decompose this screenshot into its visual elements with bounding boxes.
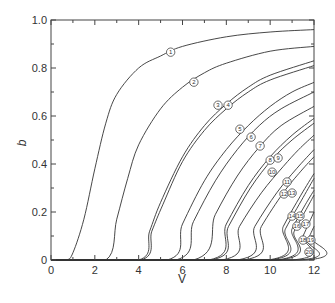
curve-10 [51, 135, 314, 260]
curve-label-marker: 15 [296, 212, 304, 220]
curve-label-marker: 19 [307, 236, 315, 244]
curve-label-marker: 18 [299, 236, 307, 244]
curve-label-marker: 8 [266, 156, 274, 164]
y-tick-label: 0 [41, 254, 47, 266]
y-axis-label: b [15, 139, 29, 146]
curve-group [51, 30, 327, 260]
curve-label-marker: 11 [283, 178, 291, 186]
curve-label-marker: 13 [288, 189, 296, 197]
y-tick-label: 0.2 [32, 206, 47, 218]
curve-label-marker: 6 [247, 133, 255, 141]
svg-text:13: 13 [289, 190, 296, 196]
curve-label-marker: 1 [166, 48, 174, 56]
y-tick-label: 0.8 [32, 62, 47, 74]
curve-15 [51, 190, 314, 260]
curve-label-marker: 5 [236, 125, 244, 133]
svg-text:16: 16 [294, 223, 301, 229]
line-chart: 1234567891011121314151617181920 02468101… [0, 0, 335, 303]
y-tick-label: 1.0 [32, 14, 47, 26]
svg-text:12: 12 [281, 191, 288, 197]
y-tick-label: 0.4 [32, 158, 47, 170]
curve-label-marker: 4 [224, 101, 232, 109]
x-tick-label: 8 [223, 264, 229, 276]
curve-4 [51, 66, 314, 260]
x-tick-label: 12 [308, 264, 320, 276]
curve-label-marker: 20 [305, 248, 313, 256]
curve-label-marker: 7 [256, 142, 264, 150]
curve-label-marker: 2 [190, 78, 198, 86]
svg-text:15: 15 [297, 213, 304, 219]
svg-text:17: 17 [303, 221, 310, 227]
curve-13 [51, 174, 314, 260]
curve-label-marker: 17 [302, 220, 310, 228]
axis-ticks: 02468101200.20.40.60.81.0 [32, 14, 320, 276]
curve-1 [51, 30, 314, 260]
curve-label-marker: 10 [268, 168, 276, 176]
curve-label-marker: 16 [293, 222, 301, 230]
x-tick-label: 0 [48, 264, 54, 276]
x-tick-label: 2 [92, 264, 98, 276]
x-axis-label: V [178, 272, 186, 286]
svg-text:18: 18 [300, 237, 307, 243]
curve-7 [51, 106, 314, 260]
curve-label-marker: 3 [214, 101, 222, 109]
curve-label-marker: 14 [288, 212, 296, 220]
curve-17 [51, 212, 314, 260]
curve-label-marker: 9 [274, 154, 282, 162]
svg-text:20: 20 [306, 249, 313, 255]
curve-18 [51, 226, 320, 260]
x-tick-label: 10 [264, 264, 276, 276]
curve-label-marker: 12 [280, 190, 288, 198]
svg-text:11: 11 [284, 179, 291, 185]
x-tick-label: 4 [136, 264, 142, 276]
y-tick-label: 0.6 [32, 110, 47, 122]
svg-text:19: 19 [308, 237, 315, 243]
svg-text:14: 14 [289, 213, 296, 219]
svg-text:10: 10 [269, 169, 276, 175]
